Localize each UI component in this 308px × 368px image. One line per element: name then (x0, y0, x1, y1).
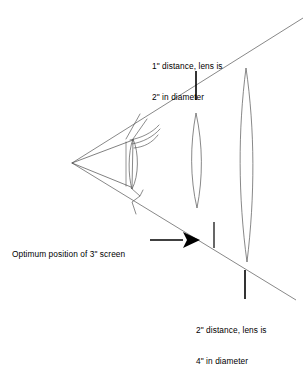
label-optimum-position-line1: Optimum position of 3" screen (12, 249, 125, 259)
label-far-lens-line1: 2" distance, lens is (196, 325, 267, 335)
hand-lower-wrist (131, 188, 140, 214)
hand-lower-edge (140, 190, 143, 196)
hand-knuckle-curve-3 (134, 135, 158, 148)
label-far-lens-line2: 4" in diameter (196, 356, 267, 366)
label-near-lens: 1" distance, lens is 2" in diameter (152, 40, 223, 123)
hand-knuckle-curve-2 (132, 129, 160, 144)
cone-edge-lower (72, 163, 131, 187)
held-lens (129, 139, 137, 189)
hand-finger-top (126, 114, 140, 139)
optimum-position-arrow (150, 232, 200, 248)
label-optimum-position: Optimum position of 3" screen (12, 228, 125, 280)
lens-near-outline (192, 113, 202, 208)
label-near-lens-line2: 2" in diameter (152, 92, 223, 102)
right-arrow-icon (183, 232, 200, 248)
converging-cone (72, 140, 133, 187)
lens-far (240, 68, 253, 262)
label-near-lens-line1: 1" distance, lens is (152, 61, 223, 71)
held-lens-axis (132, 139, 133, 189)
hand-finger-top-2 (133, 119, 147, 139)
lens-far-outline (240, 68, 253, 262)
lens-near (192, 113, 202, 208)
label-far-lens: 2" distance, lens is 4" in diameter (196, 304, 267, 368)
hand-knuckle-curve-1 (130, 125, 159, 140)
